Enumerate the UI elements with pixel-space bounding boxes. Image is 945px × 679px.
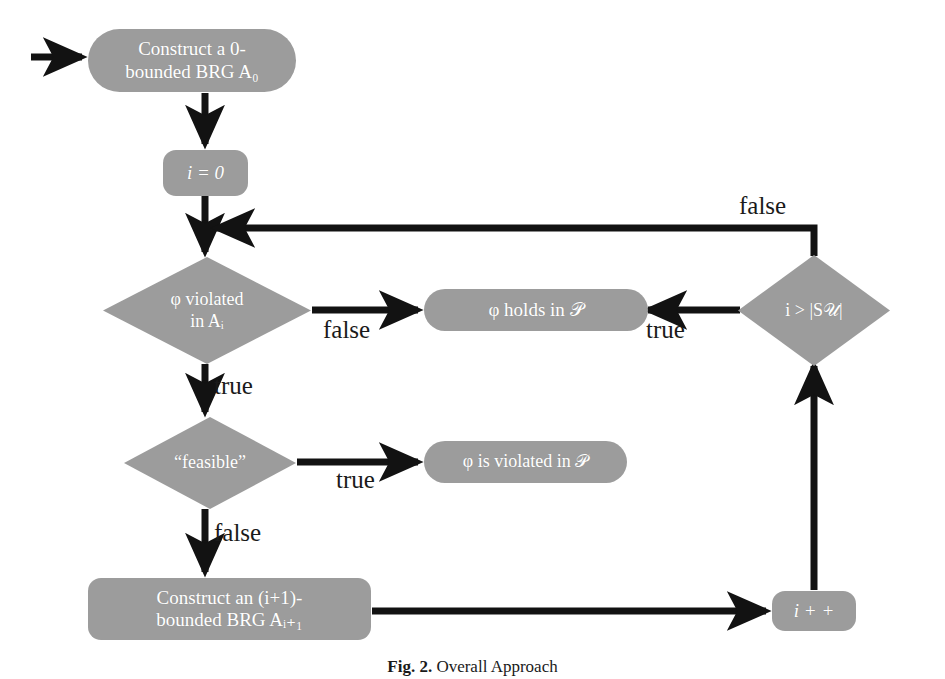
- edge-label-su-true: true: [646, 316, 685, 344]
- node-phi-is-violated-label: φ is violated in 𝒫: [453, 451, 598, 472]
- node-feasible[interactable]: “feasible”: [124, 417, 296, 509]
- edge-label-violated-true: true: [214, 372, 253, 400]
- node-construct-ai1-label: Construct an (i+1)- bounded BRG Aᵢ₊₁: [146, 587, 312, 632]
- edge-label-feasible-false: false: [214, 519, 261, 547]
- node-increment-i[interactable]: i + +: [772, 591, 856, 631]
- node-phi-holds-label: φ holds in 𝒫: [478, 299, 593, 321]
- node-i-greater-su[interactable]: i > |S𝒰|: [738, 255, 890, 366]
- figure-caption: Fig. 2. Overall Approach: [0, 657, 945, 677]
- node-feasible-label: “feasible”: [124, 417, 296, 509]
- edge-label-su-false: false: [739, 192, 786, 220]
- figure-caption-number: Fig. 2.: [387, 657, 432, 676]
- edge-su-false: [216, 228, 814, 256]
- node-phi-violated-label: φ violated in Aᵢ: [103, 257, 311, 364]
- node-increment-i-label: i + +: [784, 600, 844, 622]
- node-construct-a0[interactable]: Construct a 0- bounded BRG A₀: [88, 29, 296, 92]
- node-i-greater-su-label: i > |S𝒰|: [738, 255, 890, 366]
- figure-caption-text: Overall Approach: [436, 657, 557, 676]
- node-construct-a0-label: Construct a 0- bounded BRG A₀: [115, 38, 268, 83]
- edge-label-violated-false: false: [323, 316, 370, 344]
- node-construct-ai1[interactable]: Construct an (i+1)- bounded BRG Aᵢ₊₁: [88, 578, 371, 640]
- node-init-i-label: i = 0: [177, 162, 234, 184]
- figure-overall-approach: phi holds --> feasible --> phi is violat…: [0, 0, 945, 679]
- edge-label-feasible-true: true: [336, 466, 375, 494]
- node-init-i[interactable]: i = 0: [163, 150, 248, 196]
- node-phi-is-violated[interactable]: φ is violated in 𝒫: [424, 441, 627, 483]
- node-phi-violated[interactable]: φ violated in Aᵢ: [103, 257, 311, 364]
- node-phi-holds[interactable]: φ holds in 𝒫: [424, 289, 648, 331]
